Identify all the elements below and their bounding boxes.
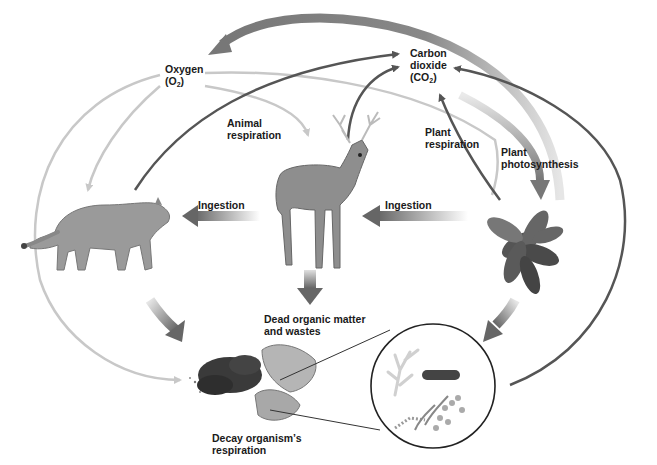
ingestion-left-label: Ingestion <box>198 199 245 211</box>
decay-respiration-line1: Decay organism’s <box>212 432 302 444</box>
carbon-oxygen-cycle-diagram: Oxygen (O2) Carbon dioxide (CO2) Animal … <box>0 0 657 465</box>
plant-photosynthesis-line1: Plant <box>501 146 579 158</box>
plant-to-decay-arrow <box>483 300 515 342</box>
cougar-to-decay-arrow <box>150 300 185 342</box>
co2-formula: (CO2) <box>410 71 447 87</box>
decay-respiration-line2: respiration <box>212 444 302 456</box>
oxygen-label: Oxygen (O2) <box>165 63 204 91</box>
plant-respiration-label: Plant respiration <box>425 126 479 150</box>
decay-respiration-label: Decay organism’s respiration <box>212 432 302 456</box>
dead-organic-matter-label: Dead organic matter and wastes <box>264 313 366 337</box>
cougar-illustration <box>21 197 170 270</box>
plant-photosynthesis-line2: photosynthesis <box>501 158 579 170</box>
cycle-arrows-layer <box>0 0 657 465</box>
deer-to-dead-matter-arrow <box>297 270 323 305</box>
dead-matter-line2: and wastes <box>264 325 366 337</box>
deer-illustration <box>276 112 380 268</box>
ingestion-right-label: Ingestion <box>385 199 432 211</box>
animal-respiration-line2: respiration <box>227 129 281 141</box>
oxygen-formula: (O2) <box>165 75 204 91</box>
decay-organisms-magnified-circle <box>371 324 495 448</box>
oxygen-label-line1: Oxygen <box>165 63 204 75</box>
plant-photosynthesis-label: Plant photosynthesis <box>501 146 579 170</box>
plant-illustration <box>483 206 565 296</box>
animal-respiration-line1: Animal <box>227 117 281 129</box>
photosynthesis-oxygen-arrow <box>208 18 560 200</box>
animal-respiration-label: Animal respiration <box>227 117 281 141</box>
dead-organic-matter-illustration <box>189 345 316 420</box>
dead-matter-line1: Dead organic matter <box>264 313 366 325</box>
plant-respiration-line1: Plant <box>425 126 479 138</box>
carbon-dioxide-label: Carbon dioxide (CO2) <box>410 47 447 87</box>
co2-label-line1: Carbon <box>410 47 447 59</box>
co2-label-line2: dioxide <box>410 59 447 71</box>
plant-respiration-line2: respiration <box>425 138 479 150</box>
